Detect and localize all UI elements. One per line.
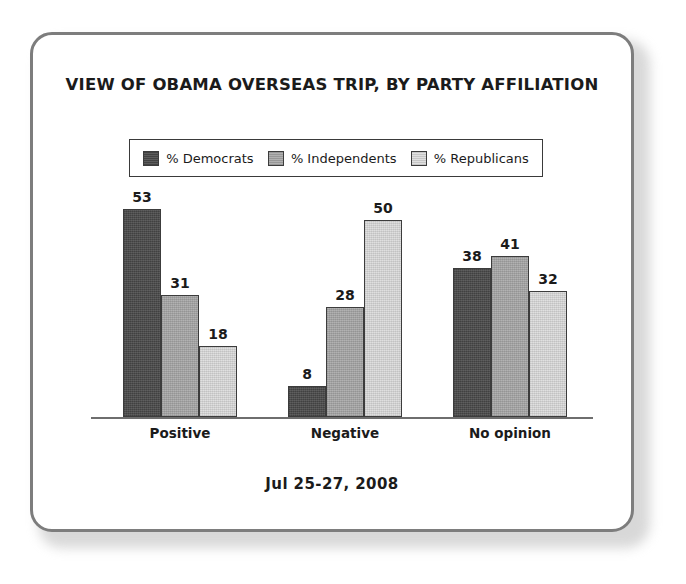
bar[interactable] — [364, 220, 402, 417]
bar[interactable] — [199, 346, 237, 417]
bar-group: 82850 — [288, 181, 402, 417]
chart-card: VIEW OF OBAMA OVERSEAS TRIP, BY PARTY AF… — [30, 32, 634, 532]
category-label: Negative — [288, 425, 402, 441]
legend-label-republicans: % Republicans — [434, 151, 529, 166]
bar-value-label: 31 — [170, 275, 189, 291]
bar[interactable] — [288, 386, 326, 417]
category-label: Positive — [123, 425, 237, 441]
bar-wrap: 53 — [123, 209, 161, 417]
bar-value-label: 50 — [373, 200, 392, 216]
legend-swatch-democrats — [143, 151, 159, 166]
plot-area: 53311882850384132 — [91, 175, 593, 419]
bar-value-label: 41 — [500, 236, 519, 252]
bar-value-label: 38 — [462, 248, 481, 264]
legend-swatch-republicans — [411, 151, 427, 166]
category-axis-labels: PositiveNegativeNo opinion — [91, 425, 593, 441]
bar[interactable] — [453, 268, 491, 417]
footer-date: Jul 25-27, 2008 — [33, 475, 631, 493]
legend-swatch-independents — [268, 151, 284, 166]
bar-wrap: 41 — [491, 256, 529, 417]
bar-wrap: 28 — [326, 307, 364, 417]
bar-wrap: 18 — [199, 346, 237, 417]
page-title: VIEW OF OBAMA OVERSEAS TRIP, BY PARTY AF… — [33, 75, 631, 94]
bar-value-label: 18 — [208, 326, 227, 342]
legend-item-republicans: % Republicans — [411, 151, 529, 166]
bar-wrap: 50 — [364, 220, 402, 417]
bar-groups: 53311882850384132 — [91, 181, 593, 417]
bar[interactable] — [123, 209, 161, 417]
bar-value-label: 28 — [335, 287, 354, 303]
bar[interactable] — [529, 291, 567, 417]
legend-item-independents: % Independents — [268, 151, 397, 166]
bar-wrap: 8 — [288, 386, 326, 417]
bar[interactable] — [326, 307, 364, 417]
bar[interactable] — [161, 295, 199, 417]
bar-wrap: 38 — [453, 268, 491, 417]
bar[interactable] — [491, 256, 529, 417]
chart-screenshot: VIEW OF OBAMA OVERSEAS TRIP, BY PARTY AF… — [0, 0, 686, 584]
legend-label-independents: % Independents — [291, 151, 397, 166]
bar-value-label: 32 — [538, 271, 557, 287]
bar-wrap: 31 — [161, 295, 199, 417]
chart-legend: % Democrats % Independents % Republicans — [129, 139, 543, 177]
bar-value-label: 8 — [302, 366, 312, 382]
bar-group: 384132 — [453, 181, 567, 417]
bar-wrap: 32 — [529, 291, 567, 417]
x-axis-line — [91, 417, 593, 419]
bar-group: 533118 — [123, 181, 237, 417]
legend-label-democrats: % Democrats — [166, 151, 253, 166]
bar-value-label: 53 — [132, 189, 151, 205]
legend-item-democrats: % Democrats — [143, 151, 253, 166]
category-label: No opinion — [453, 425, 567, 441]
